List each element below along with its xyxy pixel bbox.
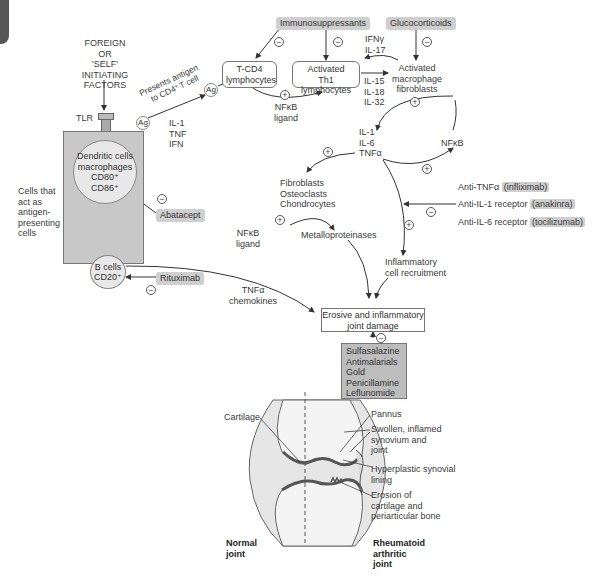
plus-sign: + <box>404 220 414 230</box>
plus-sign: + <box>422 164 432 174</box>
biologic-anti-il1: Anti-IL-1 receptor (anakinra) <box>458 199 575 210</box>
apc-cytokines-label: IL-1 TNF IFN <box>169 118 187 150</box>
drug-rituximab: Rituximab <box>156 272 204 285</box>
nfkb-label: NFκB <box>441 138 464 149</box>
inflammatory-recruitment-label: Inflammatory cell recruitment <box>385 257 446 278</box>
rheumatoid-joint-label: Rheumatoid arthritic joint <box>373 538 425 570</box>
antigen-circle-left: Ag <box>136 116 150 130</box>
b-cells-node: B cells CD20⁺ <box>90 255 126 289</box>
ifn-il17-label: IFNγ IL-17 <box>365 34 386 55</box>
tlr-label: TLR <box>76 113 93 124</box>
nfkb-ligand-mid-label: NFκB ligand <box>228 228 268 249</box>
plus-sign: + <box>280 90 290 100</box>
cartilage-label: Cartilage <box>224 412 260 423</box>
joint-damage-node: Erosive and inflammatory joint damage <box>321 308 425 332</box>
il15-18-32-label: IL-15 IL-18 IL-32 <box>364 76 385 108</box>
drug-abatacept: Abatacept <box>156 209 205 222</box>
minus-sign: − <box>426 207 436 217</box>
apc-side-label: Cells that act as antigen- presenting ce… <box>18 186 60 239</box>
antigen-circle-right: Ag <box>204 83 218 97</box>
swollen-synovium-label: Swollen, inflamed synovium and joint <box>371 424 442 456</box>
minus-sign: − <box>333 37 343 47</box>
initiating-factors-label: FOREIGN OR 'SELF' INITIATING FACTORS <box>80 38 130 91</box>
biologic-anti-il6: Anti-IL-6 receptor (tocilizumab) <box>458 217 585 228</box>
tnf-chemokines-label: TNFα chemokines <box>228 285 278 306</box>
minus-sign: − <box>274 37 284 47</box>
nfkb-ligand-top-label: NFκB ligand <box>266 102 306 123</box>
drug-immunosuppressants: Immunosuppressants <box>276 17 370 30</box>
plus-sign: + <box>410 97 420 107</box>
minus-sign: − <box>376 333 386 343</box>
erosion-label: Erosion of cartilage and periarticular b… <box>371 490 441 522</box>
minus-sign: − <box>146 285 156 295</box>
tcd4-lymphocytes-node: T-CD4 lymphocytes <box>222 61 277 88</box>
hyperplastic-lining-label: Hyperplastic synovial lining <box>371 464 456 485</box>
il1-il6-tnf-label: IL-1 IL-6 TNFα <box>359 127 382 159</box>
minus-sign: − <box>157 194 167 204</box>
metalloproteinases-label: Metalloproteinases <box>301 230 377 241</box>
plus-sign: + <box>275 215 285 225</box>
th1-lymphocytes-node: Activated Th1 lymphocytes <box>292 61 360 88</box>
biologic-anti-tnf: Anti-TNFα (infliximab) <box>458 182 549 193</box>
drug-glucocorticoids: Glucocorticoids <box>386 17 456 30</box>
dmards-box: Sulfasalazine Antimalarials Gold Penicil… <box>341 343 407 399</box>
normal-joint-label: Normal joint <box>226 538 257 559</box>
joint-illustration <box>249 392 385 546</box>
plus-sign: + <box>323 147 333 157</box>
activated-macrophage-node: Activated macrophage fibroblasts <box>392 63 442 95</box>
fibroblasts-label: Fibroblasts Osteoclasts Chondrocytes <box>280 178 336 210</box>
pannus-label: Pannus <box>371 409 402 420</box>
dendritic-cells-node: Dendritic cells macrophages CD80⁺ CD86⁺ <box>73 140 137 204</box>
minus-sign: − <box>422 37 432 47</box>
